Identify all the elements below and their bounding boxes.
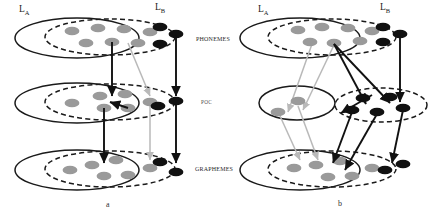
node-shared-graphemes-3: [97, 172, 112, 181]
node-shared-phonemes-4: [303, 38, 318, 47]
arrow-weak-a-0: [128, 43, 150, 96]
language-label-b-left-sub: A: [264, 9, 269, 16]
node-exclusive-graphemes-0: [378, 166, 393, 175]
panel-a-graphics: [15, 18, 183, 190]
language-label-a-left-sub: A: [25, 9, 30, 16]
language-label-a-right: LB: [155, 2, 165, 14]
node-shared-graphemes-1: [85, 161, 100, 170]
node-shared-graphemes-5: [365, 164, 380, 173]
node-exclusive-graphemes-1: [396, 160, 411, 169]
node-shared-graphemes-4: [345, 172, 360, 181]
node-shared-poc_left-0: [291, 97, 306, 106]
node-shared-poc-0: [65, 99, 80, 108]
node-exclusive-poc-0: [151, 102, 166, 111]
panel-b-strong-arrows: [333, 36, 403, 170]
node-exclusive-graphemes-1: [169, 168, 184, 177]
panel-caption-a: a: [106, 200, 110, 209]
node-shared-poc_left-1: [271, 108, 286, 117]
node-shared-phonemes-6: [131, 39, 146, 48]
arrow-weak-b-3: [280, 116, 300, 160]
node-shared-graphemes-3: [321, 173, 336, 182]
node-exclusive-phonemes-0: [376, 23, 391, 32]
node-exclusive-phonemes-0: [153, 23, 168, 32]
node-shared-graphemes-0: [63, 166, 78, 175]
node-shared-phonemes-1: [315, 23, 330, 32]
node-shared-phonemes-6: [353, 37, 368, 46]
node-shared-graphemes-1: [309, 161, 324, 170]
panel-caption-b: b: [338, 199, 342, 208]
layer-label-poc: POC: [201, 99, 212, 105]
node-exclusive-phonemes-2: [153, 40, 168, 49]
node-shared-phonemes-0: [65, 27, 80, 36]
node-shared-phonemes-0: [291, 26, 306, 35]
language-label-a-left: LA: [19, 4, 30, 16]
ellipse-solid-phonemes: [15, 18, 139, 58]
node-shared-graphemes-2: [109, 156, 124, 165]
node-exclusive-graphemes-0: [153, 158, 168, 167]
node-shared-graphemes-4: [121, 171, 136, 180]
panel-b-graphics: [240, 18, 427, 190]
figure-canvas: phonemes POC graphemes LA LB LA LB a b: [0, 0, 442, 216]
language-label-b-right: LB: [380, 2, 390, 14]
arrow-strong-b-6: [392, 110, 403, 163]
node-exclusive-phonemes-2: [376, 38, 391, 47]
node-shared-graphemes-0: [287, 164, 302, 173]
language-label-a-right-sub: B: [161, 7, 165, 14]
node-shared-poc-1: [93, 92, 108, 101]
node-shared-phonemes-2: [341, 24, 356, 33]
node-shared-poc-2: [118, 90, 133, 99]
language-label-b-left: LA: [258, 4, 269, 16]
arrow-strong-b-5: [345, 114, 377, 170]
node-shared-phonemes-1: [91, 24, 106, 33]
layer-label-phonemes: phonemes: [196, 33, 230, 43]
language-label-b-right-sub: B: [386, 7, 390, 14]
layer-label-graphemes: graphemes: [195, 163, 233, 173]
node-shared-phonemes-2: [117, 25, 132, 34]
node-shared-phonemes-4: [79, 39, 94, 48]
panel-b-weak-arrows: [280, 44, 334, 160]
